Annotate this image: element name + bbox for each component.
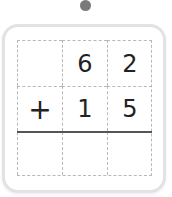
answer-cell-c1[interactable]: [62, 132, 107, 175]
cell-r0-c2: 2: [107, 40, 152, 86]
cell-r0-c0: [17, 40, 62, 86]
grid-bottom-edge: [17, 175, 152, 176]
answer-cell-c0[interactable]: [17, 132, 62, 175]
cell-r1-c2: 5: [107, 86, 152, 131]
cell-r1-c1: 1: [62, 86, 107, 131]
grid-right-edge: [151, 40, 152, 176]
answer-cell-c2[interactable]: [107, 132, 152, 175]
indicator-dot: [80, 0, 91, 11]
plus-sign: +: [17, 86, 62, 131]
sum-line: [17, 131, 152, 133]
addition-grid: 6 2 + 1 5: [17, 40, 152, 176]
cell-r0-c1: 6: [62, 40, 107, 86]
